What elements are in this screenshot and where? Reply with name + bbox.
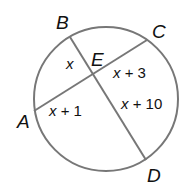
point-label-d: D [147,165,161,186]
segment-label-be: x [65,55,74,72]
segment-rest: + 1 [57,102,82,119]
chord-diagram: B C E A D x x + 3 x + 1 x + 10 [0,0,192,187]
segment-var: x [65,55,74,72]
point-label-e: E [91,49,104,70]
segment-label-ed: x + 10 [120,95,162,112]
segment-label-ec: x + 3 [112,64,146,81]
point-label-c: C [152,21,166,42]
segment-rest: + 3 [121,64,146,81]
segment-rest: + 10 [129,95,163,112]
segment-label-ae: x + 1 [48,102,82,119]
point-label-b: B [56,12,69,33]
point-label-a: A [16,111,30,132]
